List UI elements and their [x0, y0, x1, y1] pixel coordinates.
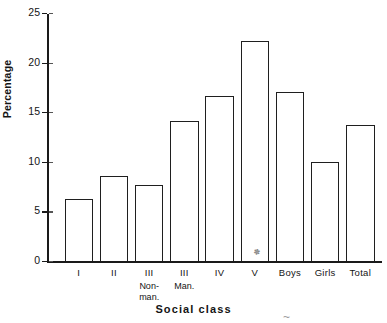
x-tick-sublabel-line: man. — [139, 292, 159, 302]
y-tick-inner-mark — [49, 13, 53, 14]
y-tick-inner-mark — [49, 112, 53, 113]
x-tick-sublabel-line: Non- — [139, 281, 159, 291]
y-tick-mark — [42, 13, 47, 14]
y-tick-mark — [42, 162, 47, 163]
bar — [170, 121, 199, 261]
y-tick-inner-mark — [49, 211, 53, 212]
y-tick-label: 25 — [28, 6, 40, 18]
y-tick-label: 0 — [34, 254, 40, 266]
y-tick-label: 10 — [28, 155, 40, 167]
bar — [205, 96, 234, 261]
bar — [311, 162, 340, 261]
y-tick-label: 20 — [28, 56, 40, 68]
y-tick-mark — [42, 63, 47, 64]
y-tick-inner-mark — [49, 162, 53, 163]
bar — [241, 41, 270, 261]
y-tick-mark — [42, 112, 47, 113]
bar-chart-figure: Percentage 0510152025 IIIIIINon-man.IIIM… — [0, 0, 387, 323]
bar — [135, 185, 164, 261]
bar — [276, 92, 305, 261]
plot-area: 0510152025 IIIIIINon-man.IIIMan.IVVBoysG… — [47, 10, 382, 266]
bar — [65, 199, 94, 261]
y-tick-label: 5 — [34, 204, 40, 216]
bar — [100, 176, 129, 261]
bar — [346, 125, 375, 261]
x-axis-title: Social class — [0, 303, 387, 315]
y-tick-mark — [42, 211, 47, 212]
x-tick-sublabel-line: Man. — [174, 281, 194, 291]
x-tick-label: Total — [336, 267, 385, 278]
x-axis-line — [47, 261, 382, 263]
y-axis-line — [47, 14, 49, 262]
x-tick-sublabel: Man. — [158, 281, 211, 292]
y-tick-inner-mark — [49, 261, 53, 262]
y-tick-inner-mark — [49, 63, 53, 64]
y-tick-label: 15 — [28, 105, 40, 117]
y-axis-title: Percentage — [1, 34, 13, 144]
ink-smudge-mark: ✽ — [252, 247, 258, 257]
y-tick-mark — [42, 261, 47, 262]
